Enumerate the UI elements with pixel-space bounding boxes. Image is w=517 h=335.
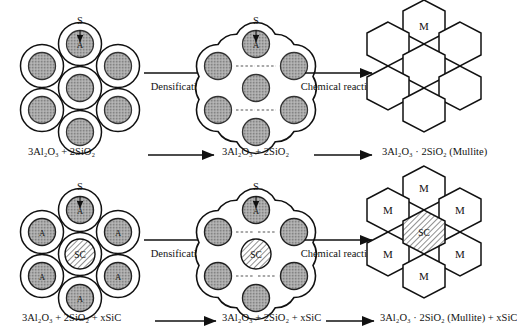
bottom-stage1-coated-particles-sic: SC AAA AAA [21,189,140,320]
top-stage2-densified: A [196,22,317,153]
formula-top-mid: 3Al₂O₃ + 2SiO₂ [222,146,289,157]
formula-bottom-right: 3Al₂O₃ · 2SiO₂ (Mullite) + xSiC [380,312,517,323]
bottom-stage3-mullite-honeycomb-sic: M M M M M M SC [367,166,481,298]
svg-text:A: A [39,228,46,238]
mullite-letter-M: M [419,20,429,32]
svg-text:M: M [419,182,429,194]
top-stage1-coated-particles: A [21,23,140,154]
svg-text:A: A [39,272,46,282]
shell-pointer-label: S [253,15,259,26]
formula-bottom-mid: 3Al₂O₃ + 2SiO₂ + xSiC [222,312,321,323]
svg-text:M: M [419,270,429,282]
sic-letter: SC [74,250,86,260]
formula-top-left: 3Al₂O₃ + 2SiO₂ [28,146,95,157]
svg-text:A: A [115,272,122,282]
svg-text:M: M [455,204,465,216]
sic-letter: SC [418,228,430,238]
bottom-stage2-densified-sic: SC A [196,188,317,319]
center-sic-particle: SC [241,239,271,269]
svg-text:A: A [77,294,84,304]
shell-pointer-label: S [77,15,83,26]
shell-pointer-label: S [77,181,83,192]
formula-bottom-left: 3Al₂O₃ + 2SiO₂ + xSiC [22,312,121,323]
shell-pointer-label: S [253,181,259,192]
sic-letter: SC [250,250,262,260]
formula-top-right: 3Al₂O₃ · 2SiO₂ (Mullite) [382,146,487,157]
svg-text:M: M [383,248,393,260]
svg-text:A: A [115,228,122,238]
svg-text:M: M [383,204,393,216]
center-sic-particle: SC [65,239,95,269]
svg-text:M: M [455,248,465,260]
top-stage3-mullite-honeycomb: M [367,0,481,132]
